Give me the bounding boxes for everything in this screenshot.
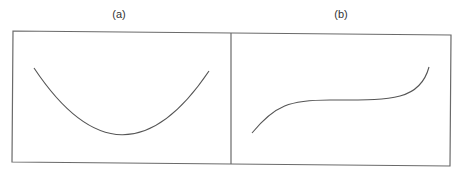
parabola-curve-a bbox=[34, 68, 209, 135]
cubic-curve-b bbox=[252, 67, 429, 133]
diagram-canvas bbox=[0, 0, 460, 173]
